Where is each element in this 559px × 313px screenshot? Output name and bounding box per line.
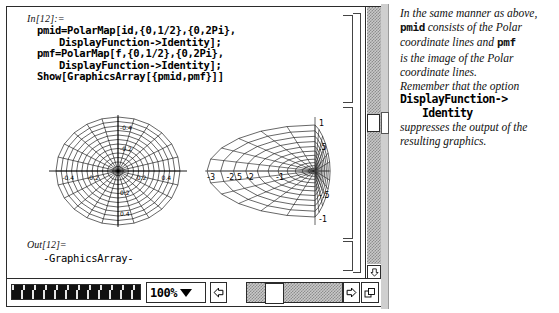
scroll-down-button[interactable] xyxy=(367,265,381,279)
scroll-right-button[interactable] xyxy=(343,282,360,303)
ruler-ticks-minor xyxy=(12,285,140,290)
cell-bracket-graphics[interactable] xyxy=(343,107,353,239)
polar-plot-pmf[interactable]: 1.5-.5-1 -3-2.5-2-1 xyxy=(203,111,345,231)
vertical-scroll-track[interactable] xyxy=(367,7,381,264)
notebook-window: In[12]:= pmid=PolarMap[id,{0,1/2},{0,2Pi… xyxy=(6,6,382,307)
svg-text:-1: -1 xyxy=(319,215,327,224)
note-line-4: is the image of the Polar xyxy=(400,51,553,65)
arrow-down-icon xyxy=(370,268,379,277)
notebook-content-area[interactable]: In[12]:= pmid=PolarMap[id,{0,1/2},{0,2Pi… xyxy=(7,7,381,279)
svg-text:-3: -3 xyxy=(207,173,215,182)
horizontal-scrollbar[interactable] xyxy=(210,282,379,303)
svg-text:-1: -1 xyxy=(276,173,284,182)
polar-plot-pmf-svg: 1.5-.5-1 -3-2.5-2-1 xyxy=(203,111,345,231)
note-line-3-text: coordinate lines and xyxy=(400,36,494,48)
note-line-1: In the same manner as above, xyxy=(400,6,553,20)
note-line-6: Remember that the option xyxy=(400,79,553,93)
scroll-left-button[interactable] xyxy=(210,282,227,303)
horizontal-scroll-thumb[interactable] xyxy=(265,283,284,304)
svg-text:0.2: 0.2 xyxy=(137,174,147,181)
output-cell-text: -GraphicsArray- xyxy=(43,252,347,264)
svg-text:.5: .5 xyxy=(319,143,327,152)
polar-plot-pmid[interactable]: -0.4-0.20.20.4-0.4-0.20.20.4 xyxy=(43,111,193,231)
graphics-array[interactable]: -0.4-0.20.20.4-0.4-0.20.20.4 1.5-.5-1 -3… xyxy=(25,111,345,231)
svg-text:0.2: 0.2 xyxy=(120,189,130,196)
svg-text:0.4: 0.4 xyxy=(162,174,172,181)
window-resize-button[interactable] xyxy=(361,282,379,303)
note-code-line-1: DisplayFunction-> xyxy=(400,93,553,107)
svg-text:-0.2: -0.2 xyxy=(120,145,132,152)
side-panel-scrollbar[interactable] xyxy=(381,4,389,309)
svg-text:-.5: -.5 xyxy=(319,191,330,200)
note-line-3: coordinate lines and pmf xyxy=(400,35,553,50)
svg-text:-0.4: -0.4 xyxy=(120,124,132,131)
code-line-5[interactable]: Show[GraphicsArray[{pmid,pmf}]] xyxy=(37,71,347,83)
svg-text:1: 1 xyxy=(319,119,324,128)
output-cell[interactable]: Out[12]= -GraphicsArray- xyxy=(7,239,347,264)
svg-text:-2: -2 xyxy=(246,173,254,182)
horizontal-scroll-track[interactable] xyxy=(246,282,343,303)
arrow-left-icon xyxy=(213,287,224,298)
side-notes-text: In the same manner as above, pmid consis… xyxy=(400,6,553,149)
application-window: In[12]:= pmid=PolarMap[id,{0,1/2},{0,2Pi… xyxy=(0,0,559,313)
arrow-right-icon xyxy=(346,287,357,298)
output-cell-label: Out[12]= xyxy=(27,239,347,250)
note-line-5: coordinate lines. xyxy=(400,65,553,79)
notebook-bottom-toolbar[interactable]: 100% xyxy=(7,278,381,306)
chevron-down-icon[interactable] xyxy=(180,289,192,297)
note-line-2-text: consists of the Polar xyxy=(428,21,522,33)
note-line-7: suppresses the output of the xyxy=(400,120,553,134)
zoom-level-dropdown[interactable]: 100% xyxy=(146,282,206,303)
cell-bracket-outer-group[interactable] xyxy=(353,13,361,273)
magnification-ruler[interactable] xyxy=(11,284,141,300)
cell-bracket-input[interactable] xyxy=(343,15,353,103)
cell-bracket-group xyxy=(341,7,363,279)
note-term-pmid: pmid xyxy=(400,21,425,34)
svg-text:-2.5: -2.5 xyxy=(226,173,242,182)
svg-text:-0.4: -0.4 xyxy=(62,174,74,181)
window-resize-icon xyxy=(364,287,376,299)
input-cell-label: In[12]:= xyxy=(27,13,347,24)
notebook-vertical-scrollbar[interactable] xyxy=(365,7,381,279)
svg-text:0.4: 0.4 xyxy=(120,210,130,217)
polar-plot-pmid-svg: -0.4-0.20.20.4-0.4-0.20.20.4 xyxy=(43,111,193,231)
code-line-1[interactable]: pmid=PolarMap[id,{0,1/2},{0,2Pi}, xyxy=(37,25,347,37)
note-line-8: resulting graphics. xyxy=(400,134,553,148)
svg-text:-0.2: -0.2 xyxy=(87,174,99,181)
note-term-pmf: pmf xyxy=(497,36,516,49)
note-line-2: pmid consists of the Polar xyxy=(400,20,553,35)
input-cell[interactable]: In[12]:= pmid=PolarMap[id,{0,1/2},{0,2Pi… xyxy=(7,7,347,83)
vertical-scroll-thumb[interactable] xyxy=(367,114,380,132)
zoom-level-label: 100% xyxy=(150,286,177,300)
cell-bracket-output[interactable] xyxy=(343,241,353,271)
side-panel-scroll-thumb[interactable] xyxy=(381,112,389,134)
note-code-line-2: Identity xyxy=(422,107,553,121)
side-notes-panel: In the same manner as above, pmid consis… xyxy=(390,4,555,309)
